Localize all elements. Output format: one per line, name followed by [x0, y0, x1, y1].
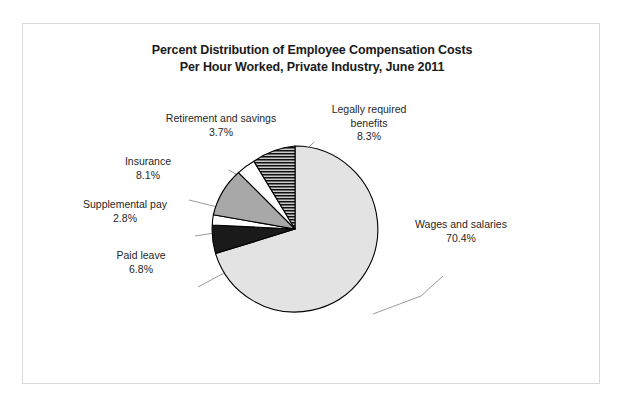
pie-label-supplemental-name: Supplemental pay: [83, 198, 167, 210]
pie-label-paid-leave-name: Paid leave: [116, 249, 165, 261]
pie-label-paid-leave-value: 6.8%: [85, 263, 197, 277]
figure-frame: Percent Distribution of Employee Compens…: [22, 23, 600, 384]
pie-label-wages-value: 70.4%: [381, 232, 541, 246]
pie-label-paid-leave: Paid leave 6.8%: [85, 249, 197, 276]
pie-label-legally-required-value: 8.3%: [291, 130, 447, 144]
pie-label-insurance-name: Insurance: [125, 155, 171, 167]
pie-label-retirement-name: Retirement and savings: [166, 112, 276, 124]
pie-label-supplemental-pay: Supplemental pay 2.8%: [51, 198, 199, 225]
pie-label-wages-and-salaries: Wages and salaries 70.4%: [381, 218, 541, 245]
pie-label-legally-required-name: Legally required: [332, 103, 407, 115]
leader-line-wages: [373, 276, 443, 314]
pie-label-wages-name: Wages and salaries: [415, 218, 507, 230]
pie-label-insurance-value: 8.1%: [83, 169, 213, 183]
pie-label-legally-required-benefits: Legally required benefits 8.3%: [291, 103, 447, 144]
pie-label-legally-required-name-2: benefits: [291, 117, 447, 131]
pie-label-insurance: Insurance 8.1%: [83, 155, 213, 182]
pie-slices: [212, 146, 378, 312]
pie-label-supplemental-value: 2.8%: [51, 212, 199, 226]
pie-chart: Retirement and savings 3.7% Insurance 8.…: [23, 24, 601, 385]
